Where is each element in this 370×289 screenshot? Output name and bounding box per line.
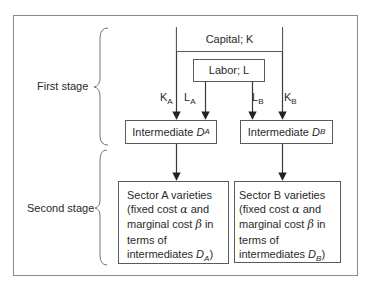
capital-label: Capital; K bbox=[206, 33, 254, 46]
intermediate-a-node: Intermediate DA bbox=[125, 120, 217, 144]
first-stage-label: First stage bbox=[37, 80, 88, 93]
second-stage-label: Second stage bbox=[27, 202, 94, 215]
edge-label-l-a: LA bbox=[184, 91, 195, 104]
labor-label: Labor; L bbox=[209, 64, 249, 77]
first-stage-brace-icon bbox=[94, 28, 108, 145]
second-stage-brace-icon bbox=[95, 150, 107, 265]
edge-label-k-b: KB bbox=[284, 91, 297, 104]
edge-label-l-b: LB bbox=[252, 91, 263, 104]
sector-b-node: Sector B varieties (fixed cost α and mar… bbox=[234, 181, 341, 263]
labor-node: Labor; L bbox=[193, 59, 265, 82]
sector-a-node: Sector A varieties (fixed cost α and mar… bbox=[118, 181, 229, 264]
capital-node: Capital; K bbox=[176, 27, 283, 52]
edge-label-k-a: KA bbox=[160, 91, 173, 104]
intermediate-b-node: Intermediate DB bbox=[240, 120, 333, 144]
